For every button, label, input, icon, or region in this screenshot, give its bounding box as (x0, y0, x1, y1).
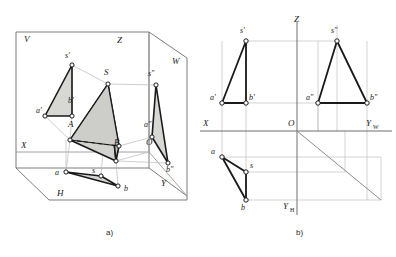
vertex-b-prime-b (244, 101, 248, 105)
vertex-B-base-a (114, 159, 118, 163)
vertex-s-dblprime-a (154, 83, 158, 87)
triangle-w-projection-b (318, 41, 367, 103)
label-a-dblprime-b: a" (306, 93, 314, 102)
label-axis-x-b: X (202, 118, 209, 128)
vertex-A-a (68, 138, 72, 142)
vertex-s-dblprime-b (335, 39, 339, 43)
vertex-b-b (244, 198, 248, 202)
vertex-b-prime-a (70, 114, 74, 118)
caption-panel-a: a) (106, 228, 113, 237)
label-b-dblprime-b: b" (370, 93, 378, 102)
vertex-a-dblprime-b (316, 101, 320, 105)
vertex-s-prime-a (70, 63, 74, 67)
vertex-S-a (106, 82, 110, 86)
label-origin-b: O (288, 118, 295, 128)
label-b-prime-a: b' (68, 96, 74, 105)
label-axis-yw: Y W (366, 118, 379, 130)
caption-panel-b: b) (296, 228, 303, 237)
label-plane-v: V (24, 34, 31, 44)
figure-root: V Z W X O Y H s' S s" a' b' A B a" b" a … (0, 0, 396, 257)
label-s-dblprime-b: s" (331, 26, 338, 35)
label-axis-z-a: Z (117, 35, 123, 45)
label-axis-yh: Y H (283, 201, 295, 213)
label-a-prime-a: a' (36, 106, 42, 115)
label-a-prime-b: a' (210, 93, 216, 102)
label-axis-y-a: Y (161, 178, 167, 188)
triangle-h-projection-b (222, 157, 246, 200)
label-b-b: b (241, 203, 245, 212)
panel-b-group: Z X O Y W Y H s' s" a' b' a" b" a s b (200, 14, 392, 215)
label-a-dblprime-a: a" (144, 120, 152, 129)
vertex-s-a (99, 174, 103, 178)
label-b-dblprime-a: b" (166, 165, 174, 174)
panel-b-vertices (220, 39, 369, 202)
vertex-a-prime-b (220, 101, 224, 105)
label-plane-w: W (172, 56, 181, 66)
label-origin-a: O (146, 137, 153, 147)
triangle-v-projection-a (45, 65, 72, 116)
label-axis-z-b: Z (294, 14, 300, 24)
panel-a-group: V Z W X O Y H s' S s" a' b' A B a" b" a … (16, 32, 187, 200)
vertex-s-prime-b (244, 39, 248, 43)
vertex-s-b (244, 170, 248, 174)
panel-b-axes (200, 22, 392, 215)
plane-v-outline (16, 32, 149, 168)
label-s-prime-a: s' (65, 51, 70, 60)
svg-text:Y: Y (366, 118, 372, 128)
triangle-v-projection-b (222, 41, 246, 103)
label-B-a: B (114, 137, 120, 147)
label-axis-x-a: X (20, 140, 27, 150)
svg-text:Y: Y (283, 201, 289, 211)
label-b-prime-b: b' (249, 93, 255, 102)
technical-drawing-canvas: V Z W X O Y H s' S s" a' b' A B a" b" a … (0, 0, 396, 257)
label-b-a: b (124, 184, 128, 193)
bisector-line (297, 131, 381, 200)
label-plane-h: H (56, 188, 64, 198)
label-s-b: s (250, 161, 253, 170)
vertex-a-a (64, 170, 68, 174)
vertex-a-b (220, 155, 224, 159)
triangle-w-projection-a (152, 85, 168, 163)
label-a-a: a (55, 168, 59, 177)
label-A-a: A (67, 119, 74, 129)
label-s-dblprime-a: s" (148, 69, 155, 78)
tetrahedron-solid (70, 84, 119, 161)
svg-text:W: W (373, 124, 379, 130)
svg-text:H: H (290, 207, 295, 213)
label-a-b: a (211, 147, 215, 156)
label-s-prime-b: s' (240, 26, 245, 35)
label-S-a: S (104, 67, 109, 77)
vertex-b-dblprime-b (365, 101, 369, 105)
vertex-b-a (116, 184, 120, 188)
vertex-a-prime-a (43, 114, 47, 118)
label-s-a: s (92, 166, 95, 175)
